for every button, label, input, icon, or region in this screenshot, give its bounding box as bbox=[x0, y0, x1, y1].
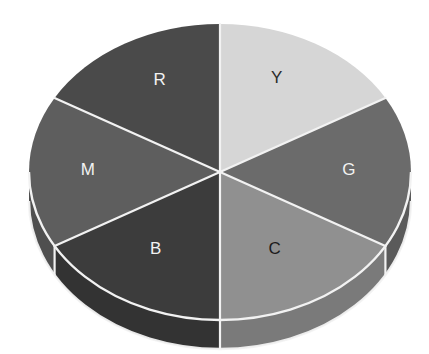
pie-slice-label-b: B bbox=[150, 239, 162, 258]
pie-slice-label-y: Y bbox=[271, 68, 283, 87]
pie-chart-svg: YGCBMR bbox=[0, 0, 429, 354]
pie-slice-label-m: M bbox=[81, 160, 96, 179]
pie-slice-label-r: R bbox=[154, 70, 167, 89]
pie-chart-figure: YGCBMR bbox=[0, 0, 429, 354]
pie-slice-label-g: G bbox=[342, 160, 356, 179]
pie-slice-label-c: C bbox=[269, 239, 282, 258]
